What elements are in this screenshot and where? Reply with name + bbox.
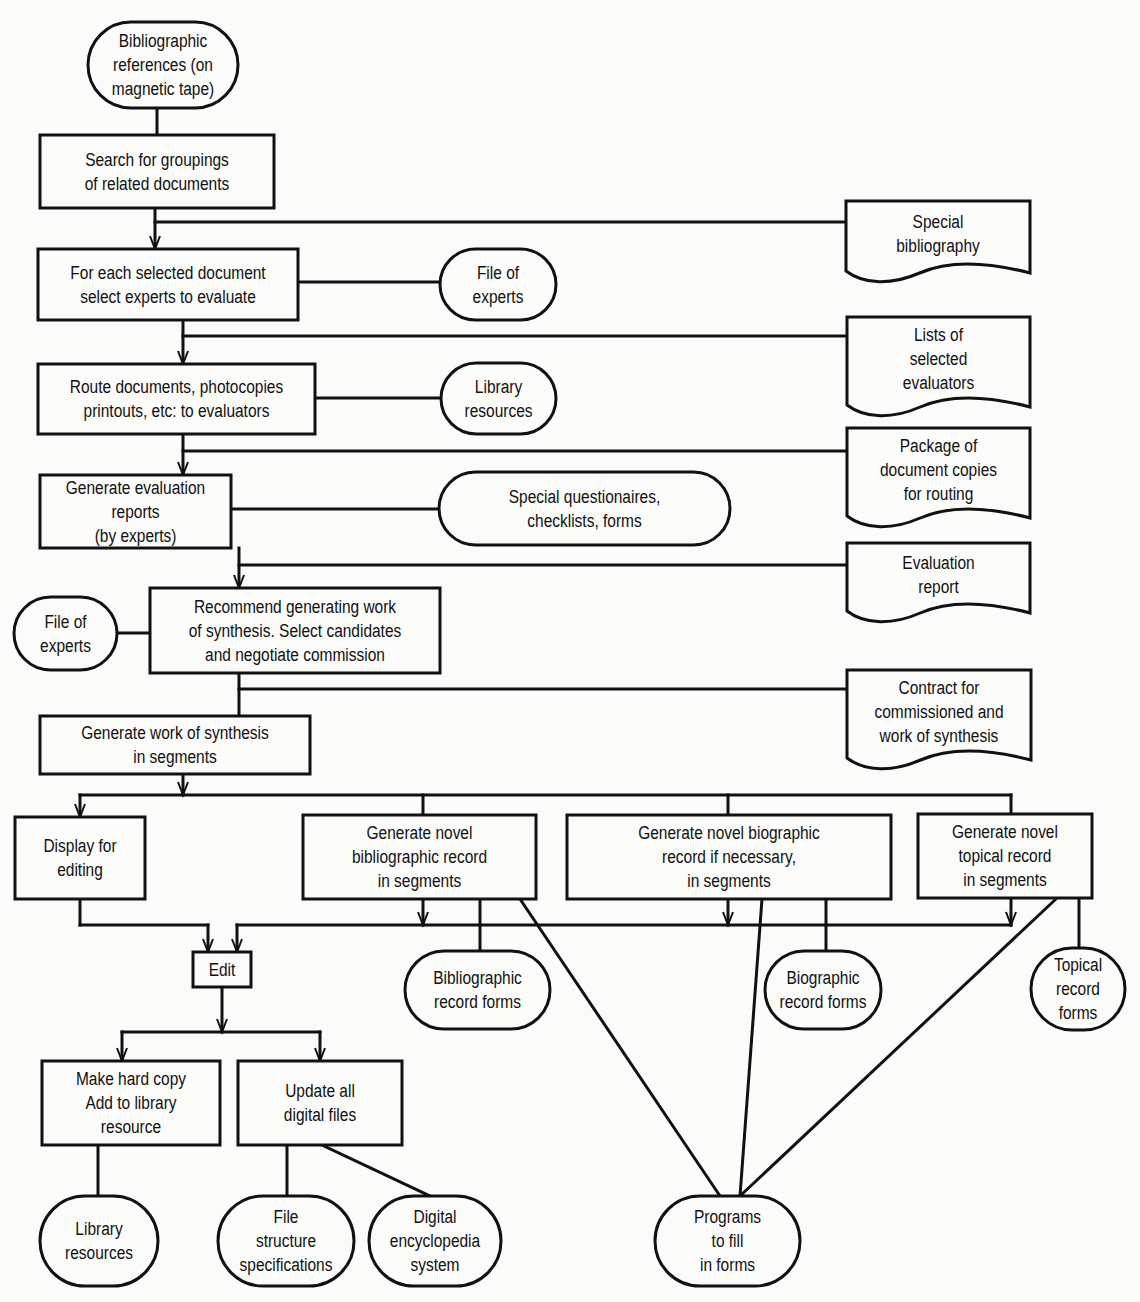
search-label: Search for groupings of related document… (56, 135, 257, 208)
contract-label: Contract for commissioned and work of sy… (860, 670, 1018, 754)
bio-record-forms-label: Biographic record forms (773, 951, 873, 1029)
programs-forms-label: Programs to fill in forms (665, 1196, 790, 1286)
eval-report-label: Evaluation report (860, 543, 1017, 607)
package-docs-label: Package of document copies for routing (860, 428, 1017, 512)
gen-eval-reports-label: Generate evaluation reports (by experts) (53, 475, 217, 548)
topical-record-forms-label: Topical record forms (1038, 948, 1119, 1030)
route-docs-label: Route documents, photocopies printouts, … (57, 364, 295, 434)
library-res-1-label: Library resources (449, 363, 548, 434)
bib-refs-label: Bibliographic references (on magnetic ta… (99, 22, 228, 108)
display-edit-label: Display for editing (24, 817, 136, 899)
gen-synthesis-label: Generate work of synthesis in segments (59, 716, 291, 774)
select-experts-label: For each selected document select expert… (56, 249, 280, 320)
library-res-2-label: Library resources (48, 1196, 149, 1286)
edit-label: Edit (197, 952, 247, 987)
file-experts-2-label: File of experts (21, 597, 110, 670)
file-struct-label: File structure specifications (228, 1196, 345, 1286)
update-files-label: Update all digital files (249, 1061, 390, 1145)
special-bib-label: Special bibliography (859, 201, 1017, 267)
flowchart-canvas: Bibliographic references (on magnetic ta… (0, 0, 1140, 1302)
recommend-label: Recommend generating work of synthesis. … (170, 588, 419, 673)
gen-bib-record-label: Generate novel bibliographic record in s… (319, 815, 519, 899)
lists-evaluators-label: Lists of selected evaluators (860, 317, 1017, 401)
gen-topical-record-label: Generate novel topical record in segment… (930, 814, 1080, 898)
gen-bio-record-label: Generate novel biographic record if nece… (590, 815, 869, 899)
hard-copy-label: Make hard copy Add to library resource (54, 1061, 207, 1145)
file-experts-1-label: File of experts (448, 249, 548, 320)
special-quest-label: Special questionaires, checklists, forms (459, 472, 709, 545)
digital-encyc-label: Digital encyclopedia system (378, 1196, 492, 1286)
bib-record-forms-label: Bibliographic record forms (415, 951, 540, 1029)
